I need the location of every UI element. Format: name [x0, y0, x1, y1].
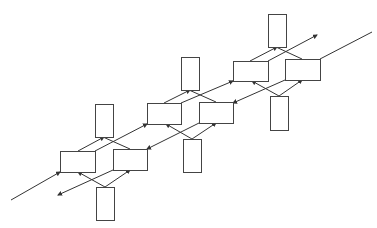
edge-arrow: [252, 81, 279, 96]
boxes-layer: [61, 15, 321, 221]
edge-arrow: [279, 80, 302, 96]
node-box-g3-left: [234, 62, 269, 82]
node-box-g2-bottom: [184, 140, 202, 173]
edge-arrow: [276, 47, 302, 59]
group-1: [61, 105, 148, 221]
node-box-g3-bottom: [271, 97, 289, 131]
edge-arrow: [11, 172, 60, 200]
node-box-g2-right: [200, 103, 234, 124]
edge-arrow: [320, 32, 372, 59]
node-box-g1-right: [114, 150, 148, 171]
group-2: [148, 58, 234, 173]
edge-arrow: [192, 123, 216, 139]
node-box-g3-right: [286, 60, 321, 81]
node-box-g2-left: [148, 104, 182, 125]
node-box-g1-left: [61, 152, 96, 173]
node-box-g1-bottom: [97, 188, 115, 221]
edge-arrow: [105, 170, 130, 187]
edge-arrow: [103, 137, 130, 149]
node-box-g2-top: [182, 58, 200, 91]
node-box-g3-top: [269, 15, 287, 48]
node-box-g1-top: [96, 105, 114, 138]
edge-arrow: [166, 124, 192, 139]
edge-arrow: [189, 90, 216, 102]
group-3: [234, 15, 321, 131]
flow-diagram: [0, 0, 377, 228]
